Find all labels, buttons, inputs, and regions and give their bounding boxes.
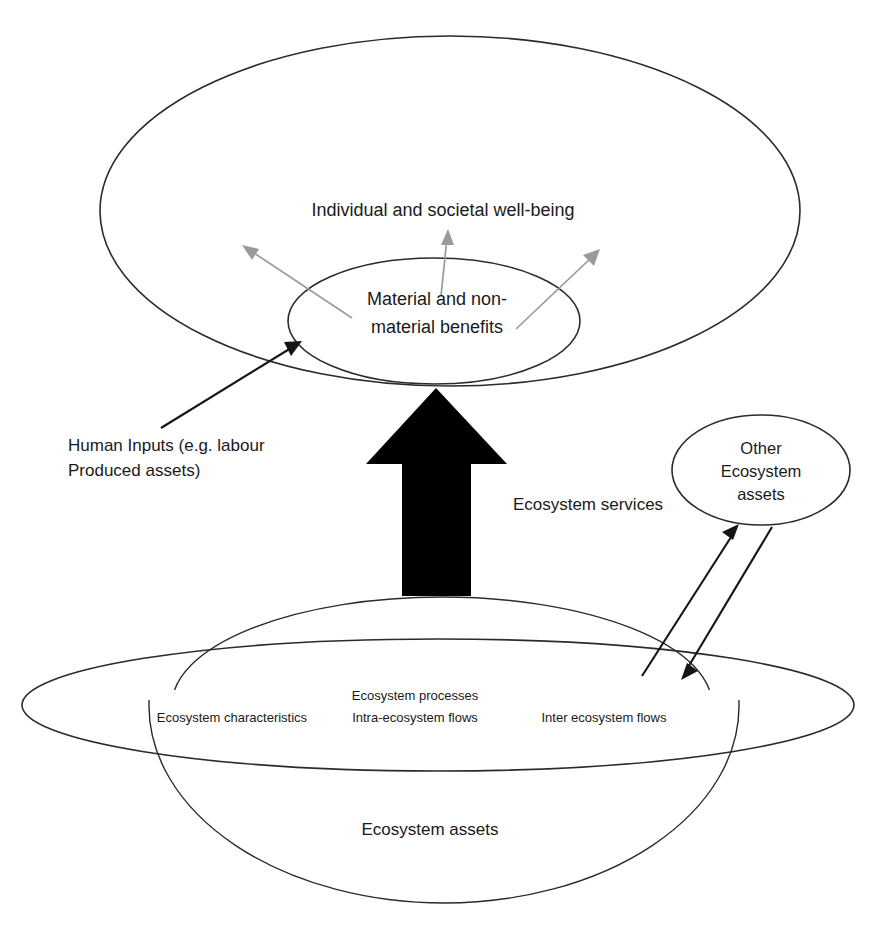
inter-ecosystem-flows-label: Inter ecosystem flows (542, 710, 667, 725)
intra-ecosystem-flows-label: Intra-ecosystem flows (352, 710, 478, 725)
human-inputs-label-line2: Produced assets) (68, 461, 200, 480)
block-arrow-up-icon (366, 388, 507, 596)
other-assets-label-line2: Ecosystem (721, 462, 802, 480)
ecosystem-disc-ellipse (22, 639, 854, 771)
wellbeing-label: Individual and societal well-being (311, 200, 574, 220)
benefits-label-line2: material benefits (371, 317, 503, 337)
ecosystem-accounting-diagram: Individual and societal well-being Mater… (0, 0, 893, 939)
grey-arrow-left-icon (242, 245, 352, 318)
ecosystem-assets-label: Ecosystem assets (362, 820, 499, 839)
ecosystem-characteristics-label: Ecosystem characteristics (157, 710, 308, 725)
ecosystem-dome (172, 597, 712, 813)
ecosystem-processes-label: Ecosystem processes (352, 688, 479, 703)
diagram-canvas: Individual and societal well-being Mater… (0, 0, 893, 939)
grey-arrow-right-icon (516, 249, 600, 329)
ecosystem-services-label: Ecosystem services (513, 495, 663, 514)
human-inputs-arrow-icon (161, 341, 302, 428)
other-assets-label-line3: assets (737, 485, 785, 503)
other-assets-label-line1: Other (740, 439, 782, 457)
benefits-label-line1: Material and non- (367, 289, 507, 309)
human-inputs-label-line1: Human Inputs (e.g. labour (68, 436, 265, 455)
grey-arrow-centre-icon (441, 229, 454, 296)
